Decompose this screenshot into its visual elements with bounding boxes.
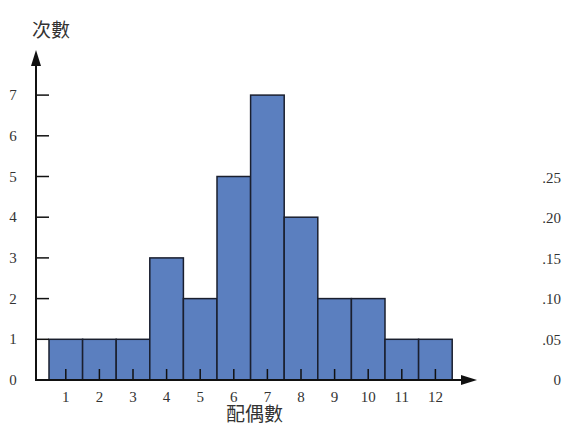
y-ticks-group: 01234567 <box>9 87 49 388</box>
y-tick-label: 0 <box>9 372 17 388</box>
bar <box>150 258 184 380</box>
x-tick-label: 1 <box>62 389 70 405</box>
y-tick-label: 7 <box>9 87 17 103</box>
x-tick-label: 11 <box>395 389 409 405</box>
bar <box>318 299 352 380</box>
bar <box>183 299 217 380</box>
histogram-chart: 123456789101112 01234567 0.05.10.15.20.2… <box>0 0 565 435</box>
x-tick-label: 4 <box>163 389 171 405</box>
x-tick-label: 5 <box>196 389 204 405</box>
secondary-y-tick-label: .10 <box>542 291 561 307</box>
x-tick-label: 9 <box>331 389 339 405</box>
secondary-y-tick-label: .25 <box>542 170 561 186</box>
secondary-y-tick-label: 0 <box>554 372 562 388</box>
bar <box>217 177 251 381</box>
y-tick-label: 2 <box>9 291 17 307</box>
secondary-y-tick-label: .05 <box>542 332 561 348</box>
y-tick-label: 4 <box>9 209 17 225</box>
y-tick-label: 3 <box>9 250 17 266</box>
x-axis-arrow-icon <box>461 375 477 385</box>
y-tick-label: 1 <box>9 331 17 347</box>
bars-group <box>49 95 452 380</box>
y-axis-title: 次數 <box>32 19 70 41</box>
bar <box>284 217 318 380</box>
secondary-y-tick-label: .20 <box>542 210 561 226</box>
y-axis-arrow-icon <box>31 50 41 66</box>
secondary-y-ticks-group: 0.05.10.15.20.25 <box>542 170 561 389</box>
y-tick-label: 5 <box>9 169 17 185</box>
secondary-y-tick-label: .15 <box>542 251 561 267</box>
x-tick-label: 3 <box>129 389 137 405</box>
bar <box>251 95 285 380</box>
y-tick-label: 6 <box>9 128 17 144</box>
x-tick-label: 12 <box>428 389 443 405</box>
bar <box>351 299 385 380</box>
x-tick-label: 2 <box>96 389 104 405</box>
x-tick-label: 8 <box>297 389 305 405</box>
x-tick-label: 10 <box>361 389 376 405</box>
x-axis-title: 配偶數 <box>226 403 283 425</box>
